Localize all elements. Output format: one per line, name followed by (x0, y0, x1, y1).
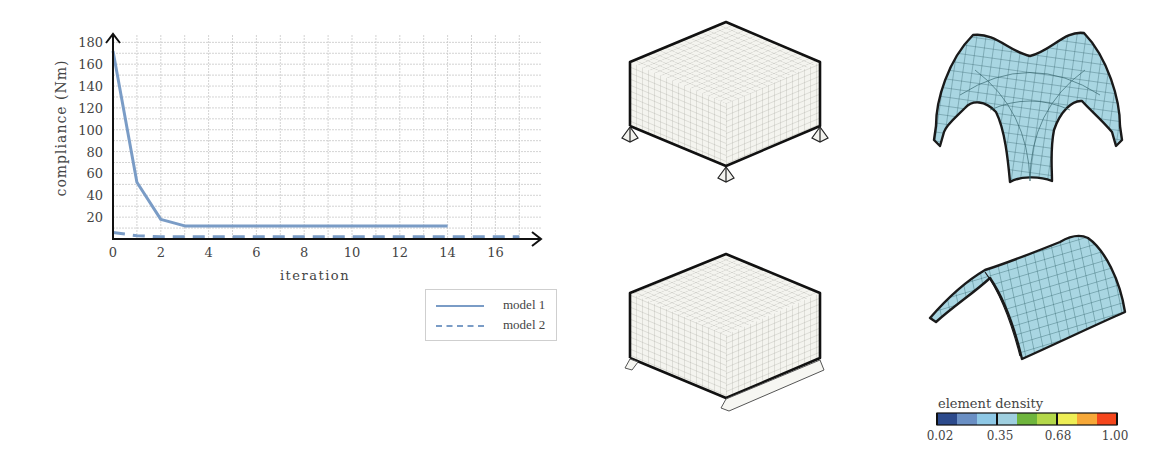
x-tick-labels: 0246810121416 (109, 245, 504, 260)
y-tick-label: 40 (86, 188, 103, 203)
x-tick-label: 0 (109, 245, 117, 260)
series-line-model-2 (113, 232, 519, 236)
colorbar-segment (937, 413, 957, 425)
colorbar-tick-label: 0.68 (1045, 429, 1072, 443)
x-tick-label: 8 (300, 245, 308, 260)
density-colorbar: element density 0.020.350.681.00 (927, 396, 1129, 443)
legend-item-model-2: model 2 (426, 316, 556, 336)
design-domain-model-2 (625, 254, 824, 411)
x-tick-label: 16 (487, 245, 504, 260)
colorbar-segment (977, 413, 997, 425)
y-tick-label: 60 (86, 166, 103, 181)
dashed-line-icon (436, 325, 484, 327)
x-tick-label: 12 (392, 245, 409, 260)
y-tick-label: 180 (78, 35, 103, 50)
colorbar-segment (1077, 413, 1097, 425)
x-tick-label: 2 (157, 245, 165, 260)
solid-line-icon (436, 305, 484, 307)
colorbar-segment (1097, 413, 1117, 425)
figure-canvas: 18016014012010080604020 0246810121416 co… (0, 0, 1175, 456)
y-tick-label: 160 (78, 57, 103, 72)
optimized-shell-model-2 (930, 236, 1125, 359)
compliance-chart: 18016014012010080604020 0246810121416 co… (53, 34, 542, 283)
x-axis-label: iteration (280, 268, 350, 283)
x-tick-label: 10 (344, 245, 361, 260)
colorbar-segment (997, 413, 1017, 425)
y-tick-label: 100 (78, 123, 103, 138)
y-axis-label: compliance (Nm) (53, 60, 69, 197)
colorbar-segments (937, 413, 1117, 425)
y-tick-label: 20 (86, 210, 103, 225)
y-tick-label: 140 (78, 79, 103, 94)
optimized-shell-model-1 (934, 33, 1122, 182)
colorbar-segment (1017, 413, 1037, 425)
colorbar-segment (1057, 413, 1077, 425)
y-tick-label: 120 (78, 101, 103, 116)
x-tick-label: 6 (252, 245, 260, 260)
colorbar-tick-labels: 0.020.350.681.00 (927, 429, 1129, 443)
y-tick-label: 80 (86, 145, 103, 160)
chart-legend: model 1 model 2 (425, 289, 557, 341)
colorbar-segment (957, 413, 977, 425)
legend-item-model-1: model 1 (426, 296, 556, 316)
legend-label: model 1 (503, 297, 545, 313)
colorbar-title: element density (938, 396, 1044, 411)
colorbar-segment (1037, 413, 1057, 425)
colorbar-tick-label: 0.02 (927, 429, 954, 443)
chart-series (113, 51, 519, 237)
y-tick-labels: 18016014012010080604020 (78, 35, 103, 225)
design-domain-model-1 (622, 22, 828, 182)
legend-label: model 2 (503, 317, 545, 333)
colorbar-tick-label: 0.35 (987, 429, 1014, 443)
x-tick-label: 14 (439, 245, 456, 260)
x-tick-label: 4 (204, 245, 212, 260)
chart-grid (113, 35, 542, 239)
colorbar-tick-label: 1.00 (1102, 429, 1129, 443)
